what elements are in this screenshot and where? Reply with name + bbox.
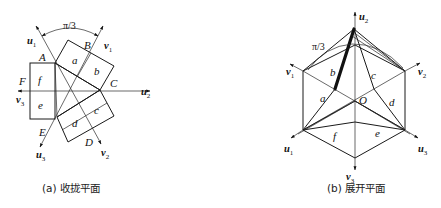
- v1-arrow: [290, 64, 303, 71]
- fold-u1-o-b: [298, 101, 355, 134]
- face-a-label: a: [72, 54, 78, 66]
- point-f-label: F: [18, 75, 26, 87]
- caption-b: (b) 展开平面: [327, 182, 385, 194]
- fold-a: [303, 89, 335, 130]
- vector-v2-label: v2: [101, 147, 110, 161]
- face-f-label: f: [38, 74, 43, 86]
- face-e-label: e: [375, 127, 380, 139]
- face-b-label: b: [330, 66, 336, 78]
- face-a-label: a: [320, 92, 326, 104]
- u1-arrow: [291, 130, 303, 138]
- vector-v2-label: v2: [418, 66, 427, 80]
- u1-arrow: [36, 26, 38, 29]
- face-d-label: d: [72, 117, 78, 129]
- v2-arrow: [99, 140, 101, 144]
- fold-apex-b-thick: [335, 29, 354, 89]
- fold-apex-v2-b: [356, 34, 405, 71]
- point-e-label: E: [38, 126, 46, 138]
- center-o-label: O: [359, 94, 367, 106]
- vector-v1-label: v1: [104, 40, 113, 54]
- angle-label: π/3: [63, 20, 76, 31]
- point-c-label: C: [110, 77, 118, 89]
- panel-a-diagram: A B C D E F a b c d e f π/3 u1 v1 u2 v2 …: [16, 20, 151, 194]
- vector-v1-label: v1: [286, 66, 295, 80]
- u3-arrow: [40, 143, 42, 147]
- face-c-label: c: [94, 104, 99, 116]
- v1-arrow: [101, 26, 103, 30]
- caption-a: (a) 收拢平面: [42, 182, 100, 194]
- fold-apex-v2-c: [352, 36, 405, 71]
- vector-v3-label: v3: [16, 94, 25, 108]
- mid-ab: [77, 53, 91, 77]
- u3-arrow: [405, 130, 418, 138]
- face-f-label: f: [333, 130, 338, 142]
- vector-u2-label: u2: [141, 86, 151, 100]
- point-d-label: D: [84, 136, 93, 148]
- panel-b-diagram: π/3 O a b c d e f u2 v1 v2 u1 u3 v3 (b) …: [284, 11, 428, 194]
- point-b-label: B: [84, 39, 91, 51]
- face-c-label: c: [371, 69, 376, 81]
- point-a-label: A: [38, 51, 46, 63]
- face-e-label: e: [38, 99, 43, 111]
- vector-u1-label: u1: [27, 35, 37, 49]
- vector-u3-label: u3: [36, 149, 46, 163]
- vector-u3-label: u3: [418, 143, 428, 157]
- vector-u1-label: u1: [284, 143, 294, 157]
- face-d-label: d: [389, 96, 395, 108]
- mid-cd: [62, 103, 107, 130]
- angle-label: π/3: [312, 41, 325, 52]
- face-b-label: b: [94, 65, 100, 77]
- figure-canvas: A B C D E F a b c d e f π/3 u1 v1 u2 v2 …: [0, 0, 441, 208]
- vector-u2-label: u2: [359, 11, 369, 25]
